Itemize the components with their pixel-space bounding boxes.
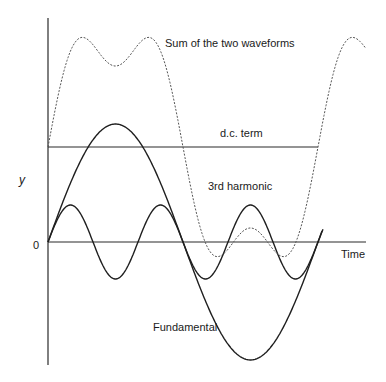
y-axis-label: y — [19, 174, 25, 186]
dc-term-label: d.c. term — [220, 128, 263, 139]
origin-label: 0 — [33, 240, 39, 251]
third-harmonic-label: 3rd harmonic — [208, 181, 272, 192]
fundamental-label: Fundamental — [153, 322, 217, 333]
sum-label: Sum of the two waveforms — [165, 38, 295, 49]
x-axis-label: Time — [341, 249, 365, 260]
